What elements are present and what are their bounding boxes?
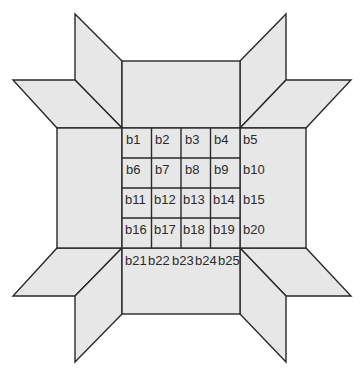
cell-label: b9 [214, 163, 228, 176]
bottom-row-label: b24 [195, 254, 217, 267]
cell-label: b18 [183, 223, 205, 236]
cell-label: b17 [154, 223, 176, 236]
cell-label: b19 [213, 223, 235, 236]
bottom-row-label: b23 [172, 254, 194, 267]
cell-label: b1 [126, 133, 140, 146]
top-square [122, 61, 240, 128]
right-column-label: b5 [243, 133, 257, 146]
cell-label: b13 [183, 193, 205, 206]
cell-label: b4 [214, 133, 228, 146]
right-column-label: b20 [243, 223, 265, 236]
bottom-row-label: b22 [148, 254, 170, 267]
cell-label: b8 [185, 163, 199, 176]
cell-label: b6 [126, 163, 140, 176]
right-column-label: b10 [243, 163, 265, 176]
cell-label: b16 [125, 223, 147, 236]
cell-label: b3 [185, 133, 199, 146]
cell-label: b12 [154, 193, 176, 206]
cell-label: b11 [125, 193, 146, 206]
bottom-row-label: b25 [218, 254, 240, 267]
cell-label: b2 [155, 133, 169, 146]
left-square [57, 128, 122, 248]
cell-label: b7 [155, 163, 169, 176]
star-block-diagram [0, 0, 362, 376]
cell-label: b14 [213, 193, 235, 206]
right-column-label: b15 [243, 193, 265, 206]
bottom-row-label: b21 [125, 254, 147, 267]
